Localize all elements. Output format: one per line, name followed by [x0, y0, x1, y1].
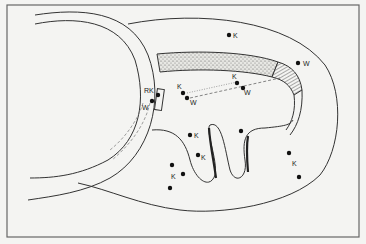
band-tail [290, 90, 302, 135]
diagram-figure: RK W K W K W K W K K K K [0, 0, 366, 244]
fold-shading-1 [209, 128, 216, 178]
marker-plain-1 [239, 129, 243, 133]
marker-plain-5 [287, 151, 291, 155]
label-w1: W [142, 104, 149, 111]
label-k-top: K [233, 32, 238, 39]
label-w-a: W [190, 99, 197, 106]
label-k-c: K [194, 132, 199, 139]
marker-w-top [296, 61, 300, 65]
fold-shading-2 [247, 136, 248, 172]
label-k-f: K [292, 160, 297, 167]
marker-plain-6 [297, 175, 301, 179]
marker-k-a [181, 91, 185, 95]
connector-dotted-k [187, 82, 237, 93]
tube-dashed-line-1 [112, 103, 150, 160]
figure-frame [7, 5, 359, 237]
tube-inner-wall [30, 21, 141, 178]
label-k-e: K [171, 173, 176, 180]
marker-plain-3 [181, 172, 185, 176]
marker-plain-4 [168, 186, 172, 190]
stippled-band [157, 52, 278, 77]
label-k-a: K [177, 83, 182, 90]
marker-w-a [185, 96, 189, 100]
label-w-b: W [244, 89, 251, 96]
striped-band-section [272, 62, 302, 95]
label-rk: RK [144, 87, 154, 94]
label-w-top: W [303, 60, 310, 67]
marker-k-top [227, 33, 231, 37]
label-k-b: K [232, 73, 237, 80]
marker-k-c [188, 133, 192, 137]
label-k-d: K [201, 154, 206, 161]
marker-w1 [150, 99, 154, 103]
connector-dashed-w [190, 78, 280, 98]
marker-k-d [196, 153, 200, 157]
marker-plain-2 [170, 163, 174, 167]
marker-rk [156, 93, 160, 97]
junction-block [154, 89, 164, 111]
marker-k-b [235, 81, 239, 85]
tube-outer-wall [28, 12, 155, 200]
